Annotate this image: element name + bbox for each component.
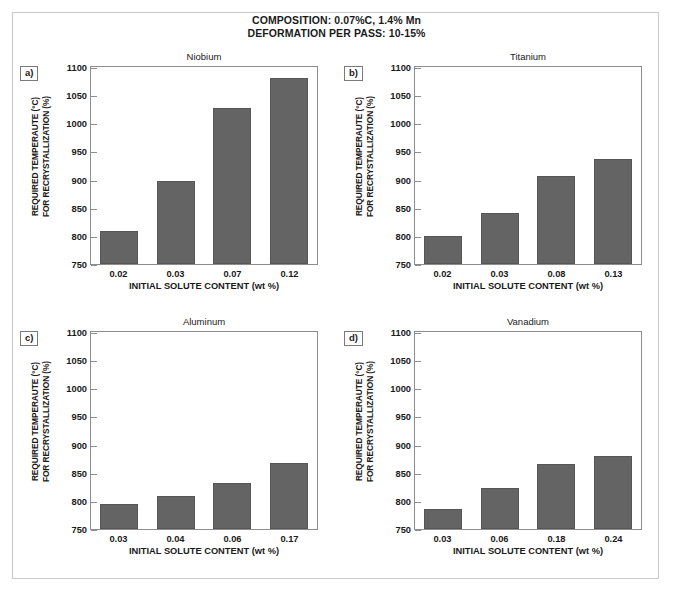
y-tick-label: 950 <box>395 412 411 422</box>
bar-series <box>415 67 641 264</box>
bar <box>537 176 575 264</box>
y-tick-mark <box>91 361 97 362</box>
x-tick-label: 0.13 <box>595 269 633 281</box>
bar-series <box>91 67 317 264</box>
y-tick-mark <box>415 389 421 390</box>
y-tick-label: 850 <box>395 204 411 214</box>
x-axis-label: INITIAL SOLUTE CONTENT (wt %) <box>398 546 658 556</box>
y-axis-label-line2: FOR RECRYSTALLIZATION (%) <box>40 67 51 247</box>
y-tick-mark <box>91 68 97 69</box>
plot-area: 110010501000950900850800750 <box>414 66 642 265</box>
y-tick-mark <box>91 209 97 210</box>
x-axis-label: INITIAL SOLUTE CONTENT (wt %) <box>74 546 334 556</box>
bar <box>424 509 462 529</box>
y-tick-label: 900 <box>395 176 411 186</box>
x-tick-label: 0.03 <box>157 269 195 281</box>
y-tick-label: 800 <box>71 497 87 507</box>
y-tick-label: 1050 <box>66 356 87 366</box>
y-tick-mark <box>91 181 97 182</box>
y-tick-mark <box>91 333 97 334</box>
y-axis-label-line1: REQUIRED TEMPERAUTE (°C) <box>30 332 41 512</box>
bar <box>157 181 195 264</box>
y-tick-mark <box>415 209 421 210</box>
y-axis-label-line1: REQUIRED TEMPERAUTE (°C) <box>354 332 365 512</box>
y-tick-label: 1000 <box>66 119 87 129</box>
bar <box>100 504 138 529</box>
subplot-aluminum: c) Aluminum REQUIRED TEMPERAUTE (°C) FOR… <box>12 315 335 579</box>
y-tick-label: 1100 <box>67 328 87 338</box>
y-tick-label: 1000 <box>390 119 411 129</box>
x-tick-label: 0.02 <box>424 269 462 281</box>
x-tick-label: 0.03 <box>481 269 519 281</box>
x-tick-label: 0.12 <box>271 269 309 281</box>
bar <box>157 496 195 529</box>
y-axis-label: REQUIRED TEMPERAUTE (°C) FOR RECRYSTALLI… <box>354 67 375 247</box>
y-axis-label: REQUIRED TEMPERAUTE (°C) FOR RECRYSTALLI… <box>354 332 375 512</box>
bar <box>270 78 308 264</box>
header-deformation: DEFORMATION PER PASS: 10-15% <box>0 27 673 40</box>
y-tick-label: 1100 <box>391 63 411 73</box>
bar <box>270 463 308 529</box>
y-tick-mark <box>415 152 421 153</box>
subplot-title: Titanium <box>414 51 642 63</box>
bar <box>100 231 138 264</box>
bar <box>213 108 251 264</box>
bar <box>213 483 251 529</box>
y-tick-label: 900 <box>71 441 87 451</box>
y-axis-label: REQUIRED TEMPERAUTE (°C) FOR RECRYSTALLI… <box>30 332 51 512</box>
x-tick-label: 0.02 <box>100 269 138 281</box>
x-tick-label: 0.18 <box>538 534 576 546</box>
y-tick-label: 800 <box>395 232 411 242</box>
x-tick-label: 0.07 <box>214 269 252 281</box>
y-tick-mark <box>415 474 421 475</box>
bar <box>424 236 462 264</box>
plot-area: 110010501000950900850800750 <box>90 331 318 530</box>
plot-area: 110010501000950900850800750 <box>90 66 318 265</box>
subplot-grid: a) Niobium REQUIRED TEMPERAUTE (°C) FOR … <box>12 50 659 579</box>
bar-series <box>415 332 641 529</box>
x-tick-label: 0.03 <box>100 534 138 546</box>
y-tick-label: 750 <box>71 525 87 535</box>
plot-area: 110010501000950900850800750 <box>414 331 642 530</box>
y-tick-label: 850 <box>71 469 87 479</box>
y-tick-mark <box>91 446 97 447</box>
x-tick-label: 0.06 <box>214 534 252 546</box>
bar <box>481 213 519 264</box>
y-tick-label: 900 <box>395 441 411 451</box>
y-tick-label: 1050 <box>390 91 411 101</box>
y-tick-label: 800 <box>71 232 87 242</box>
x-tick-labels: 0.030.040.060.17 <box>90 534 318 546</box>
y-tick-label: 1100 <box>391 328 411 338</box>
header-composition: COMPOSITION: 0.07%C, 1.4% Mn <box>0 14 673 27</box>
y-tick-label: 800 <box>395 497 411 507</box>
y-tick-label: 900 <box>71 176 87 186</box>
x-tick-labels: 0.020.030.080.13 <box>414 269 642 281</box>
y-tick-mark <box>415 361 421 362</box>
y-tick-mark <box>91 417 97 418</box>
y-tick-mark <box>91 96 97 97</box>
y-axis-label-line2: FOR RECRYSTALLIZATION (%) <box>364 67 375 247</box>
x-tick-labels: 0.030.060.180.24 <box>414 534 642 546</box>
y-tick-label: 850 <box>395 469 411 479</box>
y-tick-mark <box>91 474 97 475</box>
y-tick-mark <box>415 96 421 97</box>
subplot-title: Niobium <box>90 51 318 63</box>
y-axis-label-line2: FOR RECRYSTALLIZATION (%) <box>364 332 375 512</box>
x-tick-label: 0.04 <box>157 534 195 546</box>
x-tick-label: 0.08 <box>538 269 576 281</box>
y-tick-mark <box>91 124 97 125</box>
y-tick-mark <box>415 181 421 182</box>
y-tick-mark <box>415 446 421 447</box>
x-tick-label: 0.17 <box>271 534 309 546</box>
y-tick-label: 1000 <box>390 384 411 394</box>
x-tick-label: 0.24 <box>595 534 633 546</box>
y-tick-mark <box>415 530 421 531</box>
y-tick-mark <box>91 530 97 531</box>
y-tick-mark <box>415 417 421 418</box>
y-axis-label-line2: FOR RECRYSTALLIZATION (%) <box>40 332 51 512</box>
x-axis-label: INITIAL SOLUTE CONTENT (wt %) <box>398 281 658 291</box>
subplot-niobium: a) Niobium REQUIRED TEMPERAUTE (°C) FOR … <box>12 50 335 314</box>
y-tick-label: 750 <box>395 525 411 535</box>
y-tick-label: 1100 <box>67 63 87 73</box>
y-axis-label-line1: REQUIRED TEMPERAUTE (°C) <box>354 67 365 247</box>
